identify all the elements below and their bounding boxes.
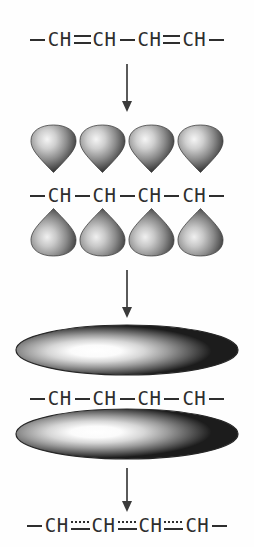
bond-double [74, 35, 91, 44]
p-orbital-lobe-icon [29, 124, 78, 173]
bond-double [163, 35, 180, 44]
p-orbital-lobe-icon [29, 208, 78, 257]
formula-p-orbital-chain: CHCHCHCH [0, 186, 254, 205]
p-orbital-row-top [0, 124, 254, 174]
pi-cloud-top [14, 322, 240, 378]
bond-partial [71, 521, 90, 530]
p-orbital-lobe-icon [127, 124, 176, 173]
p-orbital-lobe-icon [127, 208, 176, 257]
bond-partial [118, 521, 137, 530]
bond-terminal-left [30, 398, 45, 400]
formula-localized-diene: CHCHCHCH [0, 30, 254, 49]
bond-single [75, 195, 90, 197]
bond-terminal-right [209, 398, 224, 400]
atom-label: CH [182, 186, 206, 205]
bond-terminal-right [209, 195, 224, 197]
bond-terminal-left [27, 525, 42, 527]
bond-single [164, 398, 179, 400]
bond-terminal-left [30, 39, 45, 41]
bond-partial [164, 521, 183, 530]
bond-terminal-right [209, 39, 224, 41]
arrow-down-icon [119, 270, 135, 318]
diagram-canvas: CHCHCHCH [0, 0, 254, 547]
arrow-down-icon [119, 468, 135, 512]
formula-delocalized-diene: CHCHCHCH [0, 516, 254, 535]
p-orbital-lobe-icon [78, 208, 127, 257]
atom-label: CH [48, 186, 72, 205]
p-orbital-lobe-icon [176, 124, 225, 173]
p-orbital-lobe-icon [176, 208, 225, 257]
bond-terminal-right [212, 525, 227, 527]
p-orbital-lobe-icon [78, 124, 127, 173]
atom-label: CH [182, 30, 206, 49]
bond-single [120, 39, 135, 41]
atom-label: CH [92, 516, 116, 535]
arrow-down-icon [119, 64, 135, 112]
bond-single [120, 195, 135, 197]
pi-cloud-bottom [14, 406, 240, 462]
atom-label: CH [138, 30, 162, 49]
bond-single [75, 398, 90, 400]
atom-label: CH [93, 186, 117, 205]
atom-label: CH [45, 516, 69, 535]
atom-label: CH [185, 516, 209, 535]
bond-single [164, 195, 179, 197]
atom-label: CH [48, 30, 72, 49]
p-orbital-row-bottom [0, 208, 254, 258]
atom-label: CH [93, 30, 117, 49]
bond-terminal-left [30, 195, 45, 197]
atom-label: CH [138, 186, 162, 205]
atom-label: CH [139, 516, 163, 535]
bond-single [120, 398, 135, 400]
